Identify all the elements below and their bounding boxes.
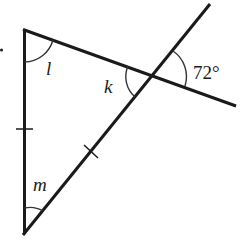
angle-label-k: k bbox=[104, 76, 113, 97]
angle-label-72: 72° bbox=[193, 62, 220, 83]
angle-arc-m bbox=[25, 207, 44, 211]
stray-dot bbox=[0, 49, 3, 52]
angle-label-m: m bbox=[33, 174, 47, 195]
angle-arc-72 bbox=[173, 51, 186, 86]
geometry-diagram: l k m 72° bbox=[0, 0, 245, 244]
angle-label-l: l bbox=[46, 58, 51, 79]
